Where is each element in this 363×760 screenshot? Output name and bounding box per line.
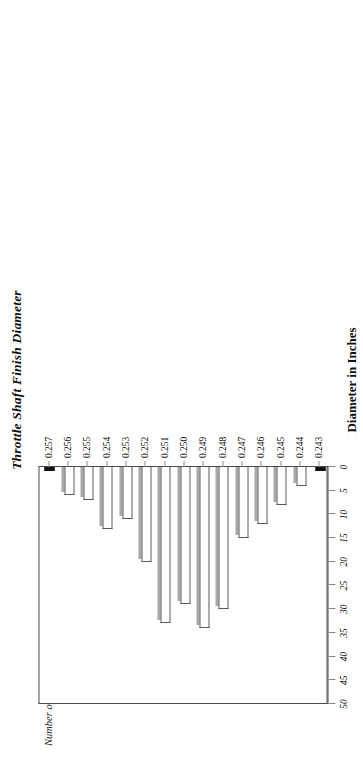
value-tick [328,656,335,657]
bar-body [180,467,190,604]
bar [254,467,267,524]
bar [215,467,228,609]
histogram-figure: Throttle Shaft Finish Diameter Number of… [0,0,363,760]
category-tick-label: 0.250 [178,437,188,458]
category-tick-label: 0.251 [159,437,169,458]
bar [312,467,325,471]
category-tick-label: 0.246 [255,437,265,458]
bar-body [160,467,170,623]
bar-body [122,467,132,519]
bar-body [238,467,248,538]
category-tick-label: 0.253 [120,437,130,458]
category-tick [48,461,49,467]
bar-body [296,467,306,486]
bar-series [38,467,328,704]
bar-body [64,467,74,495]
bar [273,467,286,505]
bar [177,467,190,604]
category-tick-label: 0.248 [217,437,227,458]
category-tick [299,461,300,467]
category-tick-label: 0.247 [236,437,246,458]
bar [157,467,170,623]
category-tick [67,461,68,467]
category-tick-label: 0.257 [43,437,53,458]
bar [119,467,132,519]
bar [138,467,151,562]
category-tick-label: 0.255 [81,437,91,458]
bar-body [257,467,267,524]
bar [80,467,93,500]
bar-body [83,467,93,500]
bar [99,467,112,529]
category-tick [164,461,165,467]
category-tick-label: 0.243 [313,437,323,458]
value-tick [328,561,335,562]
value-tick [328,537,335,538]
bar-body [44,467,54,471]
category-tick [106,461,107,467]
category-tick [202,461,203,467]
x-axis-title: Diameter in Inches [343,0,359,760]
value-tick [328,466,335,467]
bar-body [315,467,325,471]
category-tick-label: 0.244 [294,437,304,458]
category-tick-label: 0.256 [62,437,72,458]
category-tick [241,461,242,467]
category-tick-label: 0.249 [197,437,207,458]
bar [293,467,306,486]
value-tick [328,679,335,680]
bar [41,467,54,471]
value-tick [328,490,335,491]
category-tick [86,461,87,467]
value-tick [328,632,335,633]
rotated-figure-wrapper: Throttle Shaft Finish Diameter Number of… [0,0,363,760]
category-tick [280,461,281,467]
bar-body [276,467,286,505]
bar-body [199,467,209,628]
bar-body [102,467,112,529]
bar [61,467,74,495]
value-tick [328,703,335,704]
category-tick [260,461,261,467]
chart-title: Throttle Shaft Finish Diameter [8,0,24,760]
bar-body [141,467,151,562]
category-tick-label: 0.252 [139,437,149,458]
bar-body [218,467,228,609]
category-tick [125,461,126,467]
category-tick [144,461,145,467]
category-tick [318,461,319,467]
value-tick [328,585,335,586]
value-tick [328,608,335,609]
value-tick [328,513,335,514]
bar [196,467,209,628]
category-tick-label: 0.245 [275,437,285,458]
category-tick-label: 0.254 [101,437,111,458]
category-tick [183,461,184,467]
category-tick [222,461,223,467]
bar [235,467,248,538]
